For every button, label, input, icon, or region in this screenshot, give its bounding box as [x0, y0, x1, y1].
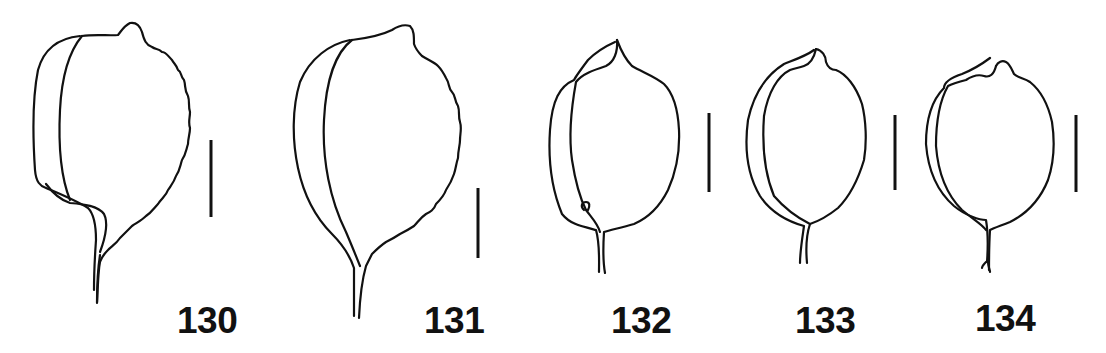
figure-132-body-outline [603, 40, 679, 273]
figure-label-132: 132 [611, 302, 671, 339]
figure-label-133: 133 [795, 302, 855, 339]
figure-131-drawing [294, 25, 461, 318]
figure-134-body-outline [989, 61, 1054, 270]
figure-130-lower-fold [46, 184, 106, 252]
figure-133-body-outline [806, 49, 865, 263]
figure-130-drawing [33, 23, 190, 303]
figure-label-134: 134 [975, 300, 1035, 337]
figure-131-body-outline [352, 25, 461, 318]
figure-132-drawing [550, 40, 680, 273]
figure-label-131: 131 [424, 302, 484, 339]
figure-plate: 130 131 132 133 134 [0, 0, 1106, 353]
figure-133-outer-wing [747, 50, 815, 263]
figure-134-stalk-tip [982, 262, 990, 272]
figure-130-inner-ridge [59, 36, 82, 200]
figure-133-drawing [747, 49, 866, 263]
figure-label-130: 130 [177, 302, 237, 339]
drawings-canvas [0, 0, 1106, 353]
figure-134-inner-ridge [936, 66, 996, 230]
figure-131-outer-wing [294, 40, 354, 316]
figure-132-inner-ridge [570, 40, 617, 232]
figure-134-drawing [926, 58, 1054, 272]
figure-134-outer-wing [926, 58, 990, 262]
